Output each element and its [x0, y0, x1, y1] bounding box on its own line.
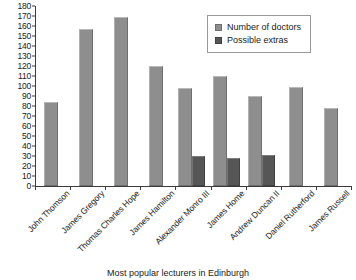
legend-item-possible-extras: Possible extras: [215, 34, 301, 47]
bar-number-of-doctors: [289, 87, 303, 186]
legend-swatch-secondary-icon: [215, 37, 222, 44]
x-tick-mark: [351, 186, 352, 190]
bar-number-of-doctors: [178, 88, 192, 186]
x-axis-label: Thomas Charles Hope: [76, 189, 141, 254]
bar-chart: 0102030405060708090100110120130140150160…: [0, 0, 356, 280]
chart-legend: Number of doctors Possible extras: [207, 15, 311, 53]
bar-number-of-doctors: [79, 29, 93, 186]
bar-possible-extras: [227, 158, 240, 186]
x-axis-line: [35, 186, 351, 187]
bar-number-of-doctors: [114, 17, 128, 186]
bar-possible-extras: [262, 155, 275, 186]
chart-caption: Most popular lecturers in Edinburgh: [0, 269, 356, 279]
bar-number-of-doctors: [149, 66, 163, 186]
bar-number-of-doctors: [44, 102, 58, 186]
legend-label-possible-extras: Possible extras: [227, 36, 288, 45]
legend-item-number-of-doctors: Number of doctors: [215, 21, 301, 34]
bar-possible-extras: [192, 156, 205, 186]
legend-label-number-of-doctors: Number of doctors: [227, 23, 301, 32]
legend-swatch-primary-icon: [215, 24, 222, 31]
bar-number-of-doctors: [248, 96, 262, 186]
x-axis-labels: John ThomsonJames GregoryThomas Charles …: [35, 189, 351, 259]
bar-number-of-doctors: [324, 108, 338, 186]
bar-number-of-doctors: [213, 76, 227, 186]
